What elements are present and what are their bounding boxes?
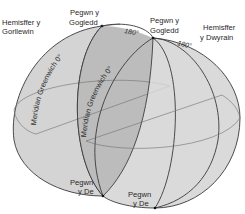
hemispheres-diagram: Meridian Greenwich 0° Meridian Greenwich…: [0, 0, 245, 214]
north-pole-west-label-line2: Gogledd: [69, 18, 98, 27]
south-pole-west-dot: [102, 195, 105, 198]
eastern-hemisphere-label-line2: y Dwyrain: [200, 33, 233, 42]
south-pole-east-label-line1: Pegwn: [128, 190, 151, 199]
eastern-hemisphere-label-line1: Hemisffer: [203, 23, 236, 32]
north-pole-east-dot: [152, 37, 155, 40]
north-pole-east-label-line1: Pegwn y: [150, 16, 179, 25]
western-hemisphere-label-line1: Hemisffer y: [2, 18, 40, 27]
south-pole-east-label-line2: y De: [133, 199, 149, 208]
south-pole-west-label-line2: y De: [78, 187, 94, 196]
north-pole-west-label-line1: Pegwn y: [70, 8, 99, 17]
western-hemisphere-label-line2: Gorllewin: [2, 27, 34, 36]
north-pole-east-label-line2: Gogledd: [150, 26, 179, 35]
south-pole-east-dot: [154, 207, 157, 210]
south-pole-west-label-line1: Pegwn: [70, 178, 93, 187]
